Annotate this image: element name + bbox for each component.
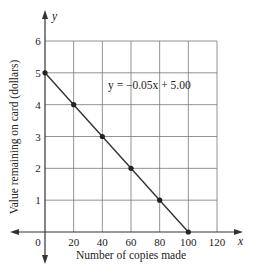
tick-labels: 020406080100120123456 xyxy=(35,35,226,248)
y-tick-label: 1 xyxy=(35,194,41,206)
y-tick-label: 4 xyxy=(35,99,41,111)
y-axis-down-arrow-icon xyxy=(42,255,48,264)
data-point xyxy=(42,70,47,75)
y-tick-label: 2 xyxy=(35,162,41,174)
series-line xyxy=(45,73,188,232)
chart: 020406080100120123456 y x Number of copi… xyxy=(0,0,257,278)
data-point xyxy=(186,229,191,234)
x-axis-label: Number of copies made xyxy=(76,249,186,262)
x-tick-label: 20 xyxy=(68,236,80,248)
y-axis-symbol: y xyxy=(51,10,58,23)
axes xyxy=(10,10,243,264)
data-point xyxy=(100,134,105,139)
data-point xyxy=(128,166,133,171)
y-tick-label: 5 xyxy=(35,67,41,79)
data-point xyxy=(71,102,76,107)
x-tick-label: 80 xyxy=(154,236,166,248)
data-point xyxy=(157,198,162,203)
y-tick-label: 6 xyxy=(35,35,41,47)
y-axis-up-arrow-icon xyxy=(42,10,48,19)
x-tick-label: 100 xyxy=(180,236,197,248)
x-tick-label: 0 xyxy=(35,236,41,248)
x-tick-label: 120 xyxy=(209,236,226,248)
x-tick-label: 60 xyxy=(126,236,138,248)
x-tick-label: 40 xyxy=(97,236,109,248)
data-series xyxy=(42,70,191,234)
grid-lines xyxy=(45,41,217,232)
equation-label: y = −0.05x + 5.00 xyxy=(108,79,191,92)
y-tick-label: 3 xyxy=(35,131,41,143)
y-axis-label: Value remaining on card (dollars) xyxy=(8,60,21,215)
x-axis-symbol: x xyxy=(237,235,244,247)
x-axis-left-arrow-icon xyxy=(10,229,19,235)
